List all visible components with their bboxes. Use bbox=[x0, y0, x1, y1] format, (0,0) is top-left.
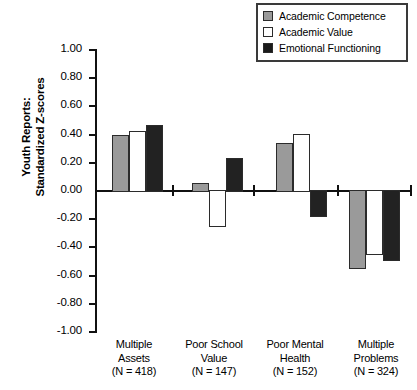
x-category-line1-2: Poor Mental bbox=[253, 338, 337, 352]
bar-poor-school-value-academic-value bbox=[209, 190, 226, 227]
bar-poor-school-value-academic-competence bbox=[192, 183, 209, 192]
bar-multiple-problems-academic-competence bbox=[349, 190, 366, 269]
bar-multiple-assets-academic-competence bbox=[112, 135, 129, 192]
y-tick-label--0.20: -0.20 bbox=[57, 210, 82, 224]
x-category-line1-1: Poor School bbox=[172, 338, 256, 352]
y-tick-0.40: 0.40 bbox=[89, 134, 96, 136]
bar-poor-mental-health-emotional-functioning bbox=[310, 190, 327, 217]
legend-label-academic-competence: Academic Competence bbox=[279, 8, 386, 24]
y-axis-title-line2: Standardized Z-scores bbox=[33, 77, 47, 196]
y-tick-label-0.80: 0.80 bbox=[60, 69, 82, 83]
y-tick-label-0.40: 0.40 bbox=[60, 126, 82, 140]
y-tick-1.00: 1.00 bbox=[89, 49, 96, 51]
x-category-line2-2: Health bbox=[253, 352, 337, 366]
bar-multiple-problems-emotional-functioning bbox=[383, 190, 400, 261]
x-category-label-multiple-problems: Multiple Problems (N = 324) bbox=[336, 338, 416, 379]
x-category-line3-3: (N = 324) bbox=[336, 365, 416, 379]
y-tick--0.40: -0.40 bbox=[89, 246, 96, 248]
y-axis-title-line1: Youth Reports: bbox=[19, 97, 33, 176]
y-axis-title: Youth Reports: Standardized Z-scores bbox=[16, 42, 50, 232]
x-tick-2 bbox=[253, 185, 255, 196]
bar-poor-school-value-emotional-functioning bbox=[226, 158, 243, 192]
x-category-line1-0: Multiple bbox=[95, 338, 173, 352]
x-category-line1-3: Multiple bbox=[336, 338, 416, 352]
y-tick--0.60: -0.60 bbox=[89, 275, 96, 277]
y-tick-label--1.00: -1.00 bbox=[57, 323, 82, 337]
bar-multiple-assets-emotional-functioning bbox=[146, 125, 163, 192]
y-tick-label--0.60: -0.60 bbox=[57, 267, 82, 281]
y-tick-label-1.00: 1.00 bbox=[60, 41, 82, 55]
x-category-label-poor-school-value: Poor School Value (N = 147) bbox=[172, 338, 256, 379]
gray-swatch-icon bbox=[263, 11, 273, 21]
x-tick-1 bbox=[172, 185, 174, 196]
y-tick--1.00: -1.00 bbox=[89, 331, 96, 333]
y-tick-label--0.80: -0.80 bbox=[57, 295, 82, 309]
y-tick-label-0.00: 0.00 bbox=[60, 182, 82, 196]
bar-chart-figure: Academic Competence Academic Value Emoti… bbox=[0, 0, 417, 390]
bar-multiple-problems-academic-value bbox=[366, 190, 383, 255]
x-category-line2-3: Problems bbox=[336, 352, 416, 366]
x-category-label-multiple-assets: Multiple Assets (N = 418) bbox=[95, 338, 173, 379]
y-tick--0.80: -0.80 bbox=[89, 303, 96, 305]
x-category-line2-1: Value bbox=[172, 352, 256, 366]
y-tick-0.60: 0.60 bbox=[89, 105, 96, 107]
y-tick-label-0.20: 0.20 bbox=[60, 154, 82, 168]
x-category-label-poor-mental-health: Poor Mental Health (N = 152) bbox=[253, 338, 337, 379]
bar-poor-mental-health-academic-competence bbox=[276, 143, 293, 192]
x-category-line2-0: Assets bbox=[95, 352, 173, 366]
y-tick-label--0.40: -0.40 bbox=[57, 238, 82, 252]
y-tick-0.80: 0.80 bbox=[89, 77, 96, 79]
white-swatch-icon bbox=[263, 27, 273, 37]
x-tick-3 bbox=[337, 185, 339, 196]
legend-item-academic-value: Academic Value bbox=[263, 24, 401, 40]
x-category-line3-1: (N = 147) bbox=[172, 365, 256, 379]
legend-label-academic-value: Academic Value bbox=[279, 24, 353, 40]
y-tick-label-0.60: 0.60 bbox=[60, 97, 82, 111]
x-category-line3-2: (N = 152) bbox=[253, 365, 337, 379]
plot-area: 1.00 0.80 0.60 0.40 0.20 0.00 -0.20 -0.4… bbox=[95, 50, 412, 332]
bar-poor-mental-health-academic-value bbox=[293, 134, 310, 192]
bar-multiple-assets-academic-value bbox=[129, 131, 146, 192]
x-tick-4 bbox=[410, 185, 412, 196]
y-tick-0.20: 0.20 bbox=[89, 162, 96, 164]
y-tick--0.20: -0.20 bbox=[89, 218, 96, 220]
legend-item-academic-competence: Academic Competence bbox=[263, 8, 401, 24]
x-category-line3-0: (N = 418) bbox=[95, 365, 173, 379]
